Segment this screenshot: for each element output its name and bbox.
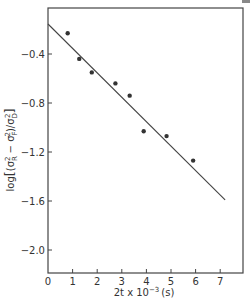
x-tick-label: 6	[192, 276, 198, 287]
y-tick-label: −0.4	[21, 49, 45, 60]
data-point	[90, 70, 94, 74]
x-axis-ticks: 01234567	[45, 269, 224, 287]
data-point	[77, 57, 81, 61]
y-tick-label: −0.8	[21, 98, 45, 109]
svg-text:log[(σR2 − σF2)/σD2]: log[(σR2 − σF2)/σD2]	[2, 108, 19, 191]
data-point	[191, 158, 195, 162]
y-axis-label: log[(σR2 − σF2)/σD2]	[2, 108, 19, 191]
fit-line	[48, 24, 225, 200]
x-tick-label: 1	[69, 276, 75, 287]
data-point	[141, 129, 145, 133]
regression-line	[48, 24, 225, 200]
x-tick-label: 3	[119, 276, 125, 287]
x-tick-label: 5	[168, 276, 174, 287]
y-tick-label: −1.2	[21, 147, 45, 158]
y-tick-label: −2.0	[21, 245, 45, 256]
data-point	[127, 93, 131, 97]
x-tick-label: 0	[45, 276, 51, 287]
scatter-chart: −0.4−0.8−1.2−1.6−2.0 01234567 2t x 10−3(…	[0, 0, 250, 305]
y-tick-label: −1.6	[21, 196, 45, 207]
y-axis-ticks: −0.4−0.8−1.2−1.6−2.0	[21, 49, 52, 256]
plot-frame	[48, 8, 243, 273]
data-point	[65, 31, 69, 35]
data-points	[65, 31, 195, 163]
data-point	[113, 81, 117, 85]
x-tick-label: 2	[94, 276, 100, 287]
data-point	[164, 134, 168, 138]
x-axis-label: 2t x 10−3(s)	[114, 286, 175, 298]
corner-mark	[242, 0, 250, 3]
x-tick-label: 7	[217, 276, 223, 287]
